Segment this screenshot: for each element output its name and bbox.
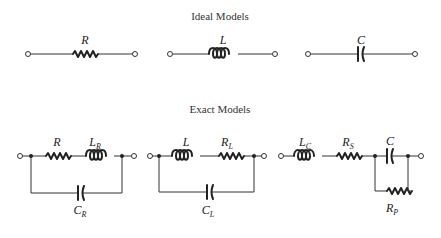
resistor-symbol	[337, 153, 362, 159]
wire	[408, 156, 411, 191]
wire	[159, 156, 206, 192]
inductor-symbol	[86, 150, 106, 160]
terminal	[279, 154, 284, 159]
exact-resistor-model: R LR CR	[18, 135, 137, 219]
wire	[375, 156, 387, 191]
inductor-symbol	[209, 48, 229, 58]
terminal	[148, 154, 153, 159]
terminal	[273, 52, 278, 57]
wire	[212, 156, 254, 192]
label-l: L	[219, 33, 227, 47]
exact-capacitor-model: LC RS C RP	[279, 134, 424, 217]
resistor-symbol	[219, 153, 244, 159]
terminal	[413, 52, 418, 57]
terminal	[419, 154, 424, 159]
label-lc: LC	[298, 135, 312, 151]
ideal-capacitor-model: C	[306, 33, 418, 61]
junction-node	[157, 154, 161, 158]
junction-node	[120, 154, 124, 158]
junction-node	[252, 154, 256, 158]
resistor-symbol	[73, 51, 98, 57]
junction-node	[29, 154, 33, 158]
label-c: C	[357, 33, 366, 47]
inductor-symbol	[294, 150, 314, 160]
junction-node	[373, 154, 377, 158]
label-l: L	[182, 135, 190, 149]
label-cr: CR	[74, 203, 87, 219]
label-c: C	[386, 134, 395, 148]
terminal	[18, 154, 23, 159]
label-rl: RL	[220, 135, 233, 151]
inductor-symbol	[172, 150, 192, 160]
resistor-symbol	[46, 153, 71, 159]
wire	[83, 156, 122, 193]
terminal	[133, 52, 138, 57]
exact-inductor-model: L RL CL	[148, 135, 267, 219]
label-cl: CL	[202, 203, 215, 219]
ideal-resistor-model: R	[26, 33, 138, 57]
label-rp: RP	[385, 201, 398, 217]
exact-models-title: Exact Models	[190, 103, 251, 115]
junction-node	[406, 154, 410, 158]
terminal	[262, 154, 267, 159]
label-r: R	[52, 135, 61, 149]
label-rs: RS	[341, 135, 353, 151]
terminal	[306, 52, 311, 57]
label-lr: LR	[88, 135, 101, 151]
ideal-inductor-model: L	[168, 33, 278, 58]
circuit-models-diagram: Ideal Models Exact Models R L C	[0, 0, 441, 238]
terminal	[26, 52, 31, 57]
terminal	[168, 52, 173, 57]
wire	[31, 156, 77, 193]
label-r: R	[80, 33, 89, 47]
terminal	[132, 154, 137, 159]
ideal-models-title: Ideal Models	[191, 10, 249, 22]
